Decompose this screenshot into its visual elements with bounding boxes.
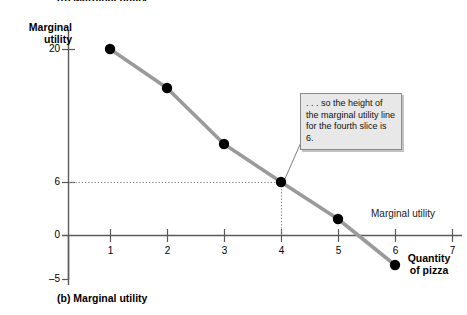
y-tick-label-minus5: –5	[34, 274, 60, 284]
x-tick-label-2: 2	[157, 246, 178, 256]
y-tick-label-0: 0	[38, 230, 60, 240]
x-axis-title-line2: of pizza	[396, 264, 462, 276]
data-point-4	[276, 177, 286, 187]
y-axis-title-line1: Marginal	[8, 21, 72, 33]
x-tick-label-1: 1	[100, 246, 121, 256]
figure-marginal-utility: (b) Marginal utility	[0, 0, 467, 315]
data-point-5	[333, 214, 343, 224]
series-label-marginal-utility: Marginal utility	[371, 208, 435, 219]
x-tick-label-5: 5	[328, 246, 349, 256]
panel-caption: (b) Marginal utility	[57, 292, 147, 304]
x-tick-label-4: 4	[271, 246, 292, 256]
data-point-1	[105, 44, 115, 54]
data-point-3	[219, 139, 229, 149]
x-tick-label-3: 3	[214, 246, 235, 256]
y-tick-label-20: 20	[38, 44, 60, 54]
y-tick-label-6: 6	[38, 177, 60, 187]
y-axis-title: Marginal utility	[8, 21, 72, 45]
marginal-utility-line	[110, 49, 395, 265]
callout-annotation: . . . so the height of the marginal util…	[300, 93, 402, 150]
x-axis-title: Quantity of pizza	[396, 252, 462, 276]
data-point-2	[162, 83, 172, 93]
x-axis-title-line1: Quantity	[396, 252, 462, 264]
